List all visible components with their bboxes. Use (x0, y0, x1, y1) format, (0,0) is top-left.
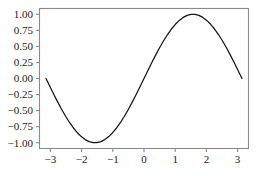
y-tick-label: 0.75 (14, 24, 34, 36)
x-tick-label: 1 (172, 153, 178, 165)
y-tick-label: 1.00 (14, 8, 34, 20)
y-tick-label: 0.50 (14, 40, 34, 52)
plot-background (0, 0, 258, 176)
chart-figure: −1.00−0.75−0.50−0.250.000.250.500.751.00… (0, 0, 258, 176)
y-tick-label: −0.25 (8, 88, 34, 100)
y-tick-label: −0.50 (8, 104, 34, 116)
x-tick-label: −3 (45, 153, 57, 165)
y-tick-label: −0.75 (8, 120, 34, 132)
x-tick-label: 3 (235, 153, 241, 165)
x-tick-label: −2 (76, 153, 88, 165)
y-tick-label: −1.00 (8, 137, 34, 149)
x-tick-label: 2 (204, 153, 210, 165)
y-tick-label: 0.25 (14, 56, 34, 68)
sine-plot: −1.00−0.75−0.50−0.250.000.250.500.751.00… (0, 0, 258, 176)
x-tick-label: −1 (107, 153, 119, 165)
y-tick-label: 0.00 (14, 72, 34, 84)
x-tick-label: 0 (141, 153, 147, 165)
